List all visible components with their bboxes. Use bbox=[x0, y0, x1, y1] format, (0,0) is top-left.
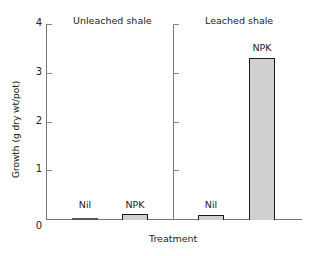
panel-title-leached: Leached shale bbox=[205, 15, 273, 26]
bar-label-unleached-npk: NPK bbox=[115, 199, 155, 210]
y-tick-4 bbox=[46, 24, 52, 25]
y-tick-label-0: 0 bbox=[30, 220, 42, 231]
bar-label-leached-nil: Nil bbox=[191, 199, 231, 210]
y-tick-label-3: 3 bbox=[30, 66, 42, 77]
y-tick-label-1: 1 bbox=[30, 163, 42, 174]
x-axis-label: Treatment bbox=[149, 233, 197, 244]
y-axis-label: Growth (g dry wt/pot) bbox=[11, 81, 21, 178]
bar-unleached-nil bbox=[72, 218, 98, 220]
y-tick-right-1 bbox=[173, 170, 179, 171]
bar-leached-nil bbox=[198, 215, 224, 220]
y-tick-1 bbox=[46, 170, 52, 171]
y-tick-3 bbox=[46, 73, 52, 74]
y-tick-label-4: 4 bbox=[30, 17, 42, 28]
bar-label-unleached-nil: Nil bbox=[65, 199, 105, 210]
y-tick-right-3 bbox=[173, 73, 179, 74]
panel-title-unleached: Unleached shale bbox=[73, 15, 152, 26]
y-tick-2 bbox=[46, 122, 52, 123]
bar-label-leached-npk: NPK bbox=[242, 42, 282, 53]
y-tick-right-2 bbox=[173, 122, 179, 123]
bar-leached-npk bbox=[249, 58, 275, 220]
bar-unleached-npk bbox=[122, 214, 148, 220]
y-tick-right-4 bbox=[173, 24, 179, 25]
y-tick-label-2: 2 bbox=[30, 115, 42, 126]
